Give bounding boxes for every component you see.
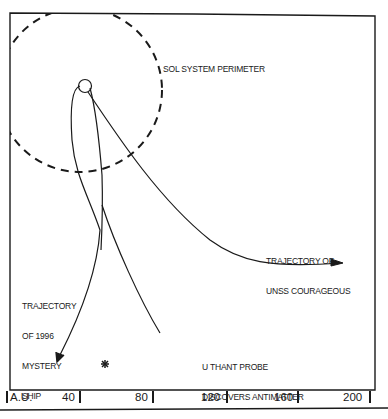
asterisk-event-icon [101, 360, 109, 368]
axis-tick-120: 120 [201, 391, 220, 404]
axis-tick-200: 200 [343, 391, 362, 404]
sun-icon [79, 80, 92, 93]
label-line: UNSS COURAGEOUS [266, 286, 350, 296]
label-line: TRAJECTORY OF [266, 256, 350, 266]
sol-system-perimeter-label: SOL SYSTEM PERIMETER [163, 64, 265, 74]
unss-courageous-label: TRAJECTORY OF UNSS COURAGEOUS [266, 236, 350, 306]
trajectory-u-thant-probe [102, 205, 160, 333]
axis-tick-80: 80 [135, 391, 148, 404]
label-line: U THANT PROBE [202, 362, 304, 372]
label-line: OF 1996 [22, 331, 76, 341]
label-line: MYSTERY [22, 361, 76, 371]
trajectory-mystery-ship-loop [90, 88, 102, 250]
axis-tick-160: 160 [274, 391, 293, 404]
axis-tick-40: 40 [62, 391, 75, 404]
axis-unit-label: A.U. [10, 391, 32, 404]
label-line: TRAJECTORY [22, 301, 76, 311]
